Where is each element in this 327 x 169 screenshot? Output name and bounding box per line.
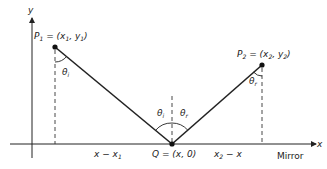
theta-i-arc-q — [156, 123, 173, 130]
point-p1 — [52, 44, 57, 49]
point-p2 — [259, 62, 264, 67]
q-label: Q = (x, 0) — [152, 149, 196, 159]
theta-i-label-q: θi — [157, 108, 165, 119]
p1-label: P1 = (x1, y1) — [34, 31, 88, 42]
theta-r-label-p2: θr — [249, 76, 258, 87]
p2-label: P2 = (x2, y2) — [237, 49, 291, 60]
distance-left-label: x − x1 — [93, 149, 122, 160]
x-axis-label: x — [316, 139, 323, 149]
reflection-diagram: y x Mirror P1 = (x1, y1) P2 = (x2, y2) Q… — [0, 0, 327, 169]
y-axis-label: y — [27, 5, 34, 15]
theta-r-arc-q — [172, 123, 188, 130]
distance-right-label: x2 − x — [213, 149, 242, 160]
theta-r-label-q: θr — [180, 108, 189, 119]
incident-ray — [55, 47, 172, 144]
mirror-label: Mirror — [277, 151, 304, 161]
point-q — [169, 141, 174, 146]
theta-r-arc-p2 — [254, 72, 262, 76]
theta-i-arc-p1 — [55, 57, 67, 62]
theta-i-label-p1: θi — [62, 67, 70, 78]
